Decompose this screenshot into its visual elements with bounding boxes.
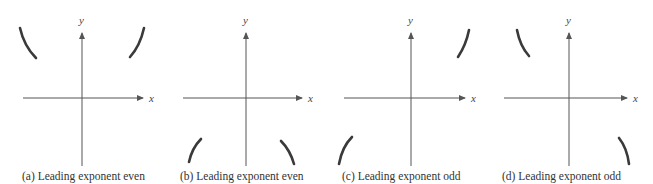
caption-c: (c) Leading exponent odd <box>342 170 460 182</box>
coordinate-axes: x y <box>0 0 165 170</box>
panel-c: x y (c) Leading exponent odd <box>325 0 490 184</box>
right-end-curve-down <box>619 138 629 164</box>
panel-a: x y (a) Leading exponent even <box>0 0 165 184</box>
panel-b: x y (b) Leading exponent even <box>160 0 325 184</box>
left-end-curve-up <box>517 30 529 56</box>
right-end-curve-down <box>281 141 294 164</box>
right-end-curve-up <box>130 28 144 57</box>
coordinate-axes: x y <box>160 0 325 170</box>
caption-b: (b) Leading exponent even <box>180 170 304 182</box>
coordinate-axes: x y <box>483 0 653 170</box>
x-axis-label: x <box>307 92 313 104</box>
x-axis-label: x <box>632 92 638 104</box>
panel-d: x y (d) Leading exponent odd <box>483 0 653 184</box>
caption-d: (d) Leading exponent odd <box>502 170 621 182</box>
caption-a: (a) Leading exponent even <box>22 170 145 182</box>
x-axis-label: x <box>470 92 476 104</box>
right-end-curve-up <box>458 30 469 57</box>
y-axis-label: y <box>565 14 571 26</box>
left-end-curve-down <box>339 137 352 164</box>
x-axis-label: x <box>148 92 154 104</box>
left-end-curve-up <box>20 28 36 58</box>
left-end-curve-down <box>189 139 201 162</box>
y-axis-label: y <box>407 14 413 26</box>
coordinate-axes: x y <box>325 0 490 170</box>
y-axis-label: y <box>78 14 84 26</box>
y-axis-label: y <box>242 14 248 26</box>
